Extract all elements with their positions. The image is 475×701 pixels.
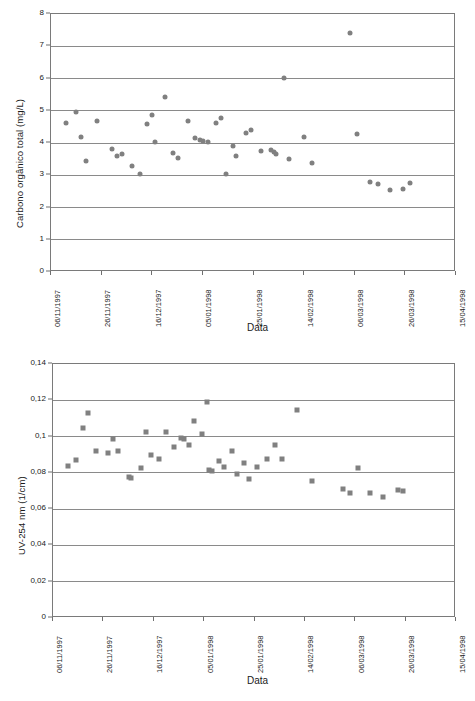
x-axis-tick-mark [455, 271, 456, 275]
data-point [145, 122, 150, 127]
data-point [295, 407, 300, 412]
data-point [66, 463, 71, 468]
y-axis-tick-label: 0,14 [2, 359, 46, 367]
gridline [51, 143, 454, 144]
data-point [156, 456, 161, 461]
x-axis-tick-mark [254, 617, 255, 621]
plot-area-uv [52, 363, 455, 617]
x-axis-tick-mark [253, 271, 254, 275]
data-point [119, 151, 124, 156]
x-axis-tick-label: 06/11/1997 [54, 290, 62, 327]
y-axis-tick-label: 8 [2, 9, 44, 17]
x-axis-tick-mark [52, 617, 53, 621]
chart-carbono-organico-total: Carbono orgânico total (mg/L) Data 01234… [0, 0, 475, 350]
y-axis-tick-label: 0,12 [2, 395, 46, 403]
data-point [111, 436, 116, 441]
x-axis-tick-label: 16/12/1997 [155, 289, 163, 327]
x-axis-tick-mark [404, 271, 405, 275]
data-point [199, 432, 204, 437]
data-point [408, 181, 413, 186]
data-point [181, 437, 186, 442]
x-axis-tick-mark [203, 617, 204, 621]
data-point [302, 135, 307, 140]
data-point [139, 466, 144, 471]
data-point [152, 140, 157, 145]
data-point [259, 149, 264, 154]
x-axis-tick-label: 26/03/1998 [408, 289, 416, 327]
x-axis-tick-label: 25/01/1998 [257, 635, 265, 673]
data-point [106, 451, 111, 456]
data-point [73, 458, 78, 463]
data-point [310, 478, 315, 483]
x-axis-tick-label: 06/03/1998 [357, 289, 365, 327]
data-point [234, 471, 239, 476]
data-point [64, 120, 69, 125]
y-axis-tick-label: 7 [2, 41, 44, 49]
y-axis-tick-label: 2 [2, 203, 44, 211]
data-point [229, 449, 234, 454]
y-axis-tick-mark [48, 363, 52, 364]
data-point [248, 128, 253, 133]
data-point [187, 442, 192, 447]
x-axis-tick-label: 05/01/1998 [205, 289, 213, 327]
data-point [355, 132, 360, 137]
data-point [74, 110, 79, 115]
data-point [375, 182, 380, 187]
data-point [137, 172, 142, 177]
data-point [162, 94, 167, 99]
x-axis-tick-mark [354, 617, 355, 621]
data-point [218, 115, 223, 120]
data-point [247, 476, 252, 481]
x-axis-tick-mark [151, 271, 152, 275]
data-point [347, 31, 352, 36]
data-point [192, 418, 197, 423]
data-point [94, 119, 99, 124]
y-axis-tick-mark [46, 238, 50, 239]
data-point [222, 465, 227, 470]
y-axis-tick-label: 6 [2, 74, 44, 82]
data-point [149, 453, 154, 458]
y-axis-tick-label: 0,08 [2, 468, 46, 476]
gridline [53, 545, 454, 546]
data-point [380, 494, 385, 499]
y-axis-tick-mark [48, 399, 52, 400]
y-axis-tick-label: 1 [2, 235, 44, 243]
data-point [280, 456, 285, 461]
y-axis-tick-label: 4 [2, 138, 44, 146]
y-axis-tick-mark [46, 142, 50, 143]
data-point [265, 456, 270, 461]
x-axis-tick-label: 06/11/1997 [56, 636, 64, 673]
gridline [51, 110, 454, 111]
data-point [109, 146, 114, 151]
y-axis-tick-label: 0,04 [2, 540, 46, 548]
data-point [286, 157, 291, 162]
y-axis-tick-mark [46, 45, 50, 46]
data-point [205, 140, 210, 145]
data-point [144, 429, 149, 434]
x-axis-tick-label: 05/01/1998 [207, 635, 215, 673]
data-point [129, 475, 134, 480]
x-axis-tick-mark [50, 271, 51, 275]
y-axis-tick-label: 0 [2, 613, 46, 621]
gridline [51, 78, 454, 79]
x-axis-title-uv: Data [20, 675, 475, 686]
x-axis-tick-mark [102, 617, 103, 621]
y-axis-tick-mark [48, 435, 52, 436]
x-axis-tick-mark [153, 617, 154, 621]
gridline [53, 509, 454, 510]
data-point [116, 449, 121, 454]
data-point [223, 172, 228, 177]
gridline [53, 400, 454, 401]
data-point [231, 143, 236, 148]
gridline [51, 46, 454, 47]
gridline [51, 207, 454, 208]
data-point [213, 121, 218, 126]
y-axis-tick-mark [46, 174, 50, 175]
x-axis-tick-mark [304, 617, 305, 621]
data-point [388, 188, 393, 193]
x-axis-tick-label: 06/03/1998 [358, 635, 366, 673]
data-point [81, 426, 86, 431]
x-axis-tick-mark [303, 271, 304, 275]
y-axis-tick-mark [48, 471, 52, 472]
data-point [243, 131, 248, 136]
